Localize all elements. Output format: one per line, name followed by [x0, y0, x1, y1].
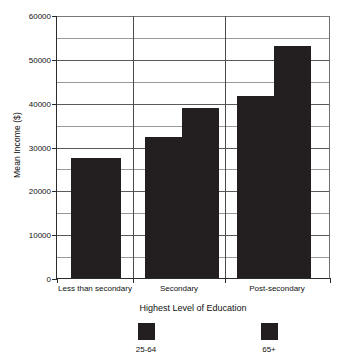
x-tick-1: [133, 278, 134, 283]
y-tick-30000: [52, 148, 57, 149]
y-axis-label-60000: 60000: [29, 12, 51, 21]
legend-swatch-65plus: [261, 323, 278, 340]
y-tick-10000: [52, 235, 57, 236]
bar-post-secondary-65plus: [274, 46, 311, 278]
bar-secondary-25-64: [145, 137, 182, 278]
bar-chart: Mean Income ($) 60000 50000 40000 30000 …: [0, 0, 343, 358]
y-tick-60000: [52, 16, 57, 17]
y-axis-label-30000: 30000: [29, 143, 51, 152]
scan-artifact-mark: [3, 330, 7, 334]
x-axis-title: Highest Level of Education: [56, 303, 330, 313]
legend-label-65plus: 65+: [229, 345, 309, 354]
bar-less-than-secondary-25-64: [71, 158, 121, 279]
legend-label-25-64: 25-64: [106, 345, 186, 354]
y-axis-label-20000: 20000: [29, 187, 51, 196]
bar-secondary-65plus: [182, 108, 219, 278]
legend-item-25-64: 25-64: [106, 323, 186, 354]
bar-post-secondary-25-64: [237, 96, 274, 278]
legend-swatch-25-64: [138, 323, 155, 340]
gridline-60000: [57, 16, 329, 17]
y-tick-40000: [52, 104, 57, 105]
chart-legend: 25-64 65+: [56, 323, 330, 357]
y-axis-label-0: 0: [47, 275, 51, 284]
x-tick-2: [225, 278, 226, 283]
x-tick-start: [57, 278, 58, 283]
y-axis-title: Mean Income ($): [12, 70, 22, 220]
plot-area: 60000 50000 40000 30000 20000 10000 0 Le…: [56, 16, 330, 279]
x-tick-end: [330, 278, 331, 283]
legend-item-65plus: 65+: [229, 323, 309, 354]
x-axis-category-post-secondary: Post-secondary: [249, 284, 305, 293]
gridline-55000: [57, 38, 329, 39]
x-axis-category-secondary: Secondary: [160, 284, 198, 293]
x-axis-category-less-than-secondary: Less than secondary: [58, 284, 132, 293]
y-tick-20000: [52, 191, 57, 192]
y-axis-label-50000: 50000: [29, 55, 51, 64]
group-separator-1: [133, 16, 134, 278]
y-tick-50000: [52, 60, 57, 61]
y-axis-label-10000: 10000: [29, 231, 51, 240]
group-separator-2: [225, 16, 226, 278]
y-axis-label-40000: 40000: [29, 99, 51, 108]
